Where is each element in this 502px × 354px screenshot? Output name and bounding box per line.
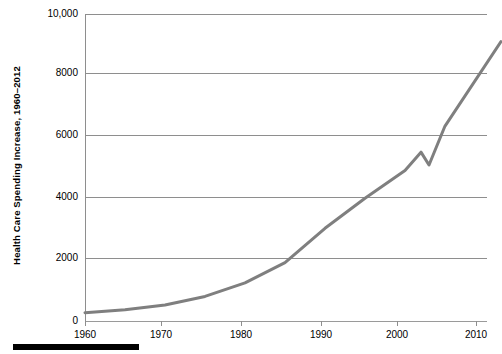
gridline-6000 [85, 135, 487, 136]
x-tick-mark-1970 [161, 321, 162, 326]
x-tick-mark-2000 [397, 321, 398, 326]
y-tick-label-10000: 10,000 [18, 9, 78, 19]
y-tick-label-2000: 2000 [18, 253, 78, 263]
gridline-8000 [85, 73, 487, 74]
x-tick-label-1980: 1980 [216, 329, 266, 340]
x-tick-label-1990: 1990 [296, 329, 346, 340]
x-tick-mark-1960 [85, 321, 86, 326]
chart-screenshot: Health Care Spending Increase, 1960–2012… [0, 0, 502, 354]
y-tick-label-6000: 6000 [18, 130, 78, 140]
x-tick-mark-1980 [241, 321, 242, 326]
x-tick-mark-1990 [321, 321, 322, 326]
y-tick-label-8000: 8000 [18, 68, 78, 78]
y-axis-line [85, 14, 86, 321]
x-axis-line [85, 321, 487, 322]
gridline-4000 [85, 197, 487, 198]
gridline-2000 [85, 258, 487, 259]
x-tick-label-1970: 1970 [136, 329, 186, 340]
plot-area [85, 14, 487, 321]
gridline-10000 [85, 14, 487, 15]
y-tick-label-4000: 4000 [18, 192, 78, 202]
x-tick-mark-2010 [476, 321, 477, 326]
x-tick-label-2010: 2010 [451, 329, 501, 340]
bottom-rule [13, 344, 139, 350]
x-tick-label-1960: 1960 [60, 329, 110, 340]
x-tick-label-2000: 2000 [372, 329, 422, 340]
y-tick-label-0: 0 [18, 316, 78, 326]
y-axis-tick-labels: 10,000 8000 6000 4000 2000 0 [12, 0, 78, 354]
